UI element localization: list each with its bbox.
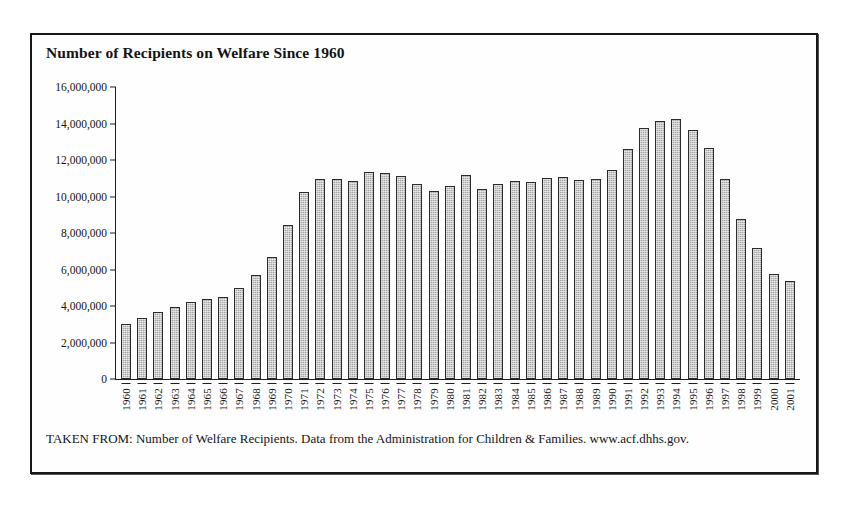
x-axis-tick-mark [542, 383, 551, 384]
bar-slot: 1988 [571, 87, 587, 379]
y-axis-tick-label: 4,000,000 [61, 300, 107, 312]
bar [785, 281, 795, 379]
x-axis-tick-mark [219, 383, 228, 384]
bar-slot: 1966 [215, 87, 231, 379]
bar [251, 275, 261, 379]
x-axis-tick-mark [283, 383, 292, 384]
x-axis-tick-label: 1968 [250, 388, 262, 411]
x-axis-tick-label: 1974 [347, 388, 359, 411]
x-axis-tick-mark [251, 383, 260, 384]
x-axis-tick-label: 1982 [476, 388, 488, 411]
bar [558, 177, 568, 379]
x-axis-tick-label: 1989 [590, 388, 602, 411]
bar [218, 297, 228, 379]
bar [234, 288, 244, 380]
x-axis-tick-mark [348, 383, 357, 384]
bar [623, 149, 633, 379]
x-axis-tick-label: 1998 [735, 388, 747, 411]
bar [202, 299, 212, 379]
x-axis-tick-mark [559, 383, 568, 384]
bar-slot: 1967 [231, 87, 247, 379]
bar [364, 172, 374, 379]
x-axis-tick-label: 1967 [233, 388, 245, 411]
x-axis-tick-label: 1980 [444, 388, 456, 411]
x-axis-tick-mark [397, 383, 406, 384]
bar-slot: 1960 [118, 87, 134, 379]
y-axis-tick-label: 6,000,000 [61, 264, 107, 276]
x-axis-tick-mark [721, 383, 730, 384]
x-axis-tick-label: 1988 [573, 388, 585, 411]
bar-slot: 1963 [167, 87, 183, 379]
bar-slot: 1974 [345, 87, 361, 379]
bar [477, 189, 487, 379]
x-axis-tick-label: 1975 [363, 388, 375, 411]
x-axis-tick-mark [640, 383, 649, 384]
bar [720, 179, 730, 379]
bar-slot: 1979 [426, 87, 442, 379]
x-axis-tick-mark [154, 383, 163, 384]
bar-slot: 1994 [668, 87, 684, 379]
x-axis-tick-label: 1976 [379, 388, 391, 411]
bar-slot: 1973 [328, 87, 344, 379]
bar-slot: 1982 [474, 87, 490, 379]
bar-slot: 1972 [312, 87, 328, 379]
bar [380, 173, 390, 379]
x-axis-tick-mark [122, 383, 131, 384]
x-axis-tick-mark [526, 383, 535, 384]
bar [332, 179, 342, 379]
bar [510, 181, 520, 379]
bar [429, 191, 439, 379]
bar [137, 318, 147, 379]
bar-slot: 1986 [539, 87, 555, 379]
x-axis-tick-label: 1979 [428, 388, 440, 411]
x-axis-tick-mark [364, 383, 373, 384]
bar [396, 176, 406, 379]
bar-slot: 1980 [442, 87, 458, 379]
bar [461, 175, 471, 379]
bar-slot: 1996 [701, 87, 717, 379]
x-axis-tick-label: 1972 [314, 388, 326, 411]
x-axis-tick-mark [607, 383, 616, 384]
x-axis-tick-mark [672, 383, 681, 384]
bar [299, 192, 309, 379]
bar-slot: 1969 [264, 87, 280, 379]
bar [688, 130, 698, 379]
x-axis-tick-label: 1992 [638, 388, 650, 411]
bar [591, 179, 601, 379]
x-axis-tick-label: 1961 [136, 388, 148, 411]
x-axis-tick-label: 1973 [331, 388, 343, 411]
x-axis-tick-label: 1986 [541, 388, 553, 411]
bar [574, 180, 584, 379]
x-axis-tick-mark [591, 383, 600, 384]
bar [412, 184, 422, 379]
bar-slot: 1989 [587, 87, 603, 379]
y-axis-tick-label: 12,000,000 [55, 154, 107, 166]
x-axis-tick-label: 1984 [509, 388, 521, 411]
bar-slot: 1965 [199, 87, 215, 379]
bar-series: 1960196119621963196419651966196719681969… [116, 87, 800, 379]
bar-slot: 1962 [150, 87, 166, 379]
y-axis-tick-label: 16,000,000 [55, 81, 107, 93]
bar-slot: 1993 [652, 87, 668, 379]
x-axis-tick-label: 1985 [525, 388, 537, 411]
x-axis-tick-label: 1970 [282, 388, 294, 411]
x-axis-tick-label: 1995 [687, 388, 699, 411]
bar-slot: 1975 [361, 87, 377, 379]
x-axis-tick-mark [769, 383, 778, 384]
x-axis-tick-mark [413, 383, 422, 384]
bar [671, 119, 681, 379]
x-axis-tick-mark [316, 383, 325, 384]
y-axis-tick-label: 10,000,000 [55, 191, 107, 203]
page-title: Number of Recipients on Welfare Since 19… [46, 44, 345, 62]
bar-slot: 1997 [717, 87, 733, 379]
bar-slot: 2000 [766, 87, 782, 379]
x-axis-tick-mark [267, 383, 276, 384]
bar [542, 178, 552, 379]
x-axis-tick-label: 1994 [670, 388, 682, 411]
x-axis-tick-label: 1977 [395, 388, 407, 411]
bar [186, 302, 196, 379]
x-axis-tick-label: 1960 [120, 388, 132, 411]
bar [769, 274, 779, 380]
bar-slot: 1985 [523, 87, 539, 379]
bar-slot: 1998 [733, 87, 749, 379]
